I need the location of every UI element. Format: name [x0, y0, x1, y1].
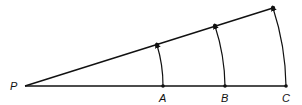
arc-from-B [215, 26, 225, 86]
image-C-dot [271, 6, 275, 10]
image-B-dot [213, 24, 217, 28]
label-B: B [221, 92, 228, 104]
rotation-diagram: P A B C [0, 0, 302, 105]
arc-from-C [273, 8, 286, 86]
label-C: C [282, 92, 290, 104]
point-C-dot [284, 84, 288, 88]
arc-from-A [157, 45, 163, 86]
inclined-line [25, 8, 273, 86]
image-A-dot [155, 43, 159, 47]
point-B-dot [223, 84, 227, 88]
point-A-dot [161, 84, 165, 88]
label-P: P [10, 80, 18, 92]
label-A: A [158, 92, 166, 104]
